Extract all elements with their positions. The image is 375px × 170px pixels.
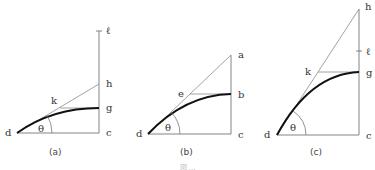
- label-c: c: [366, 130, 372, 141]
- label-h: h: [365, 1, 372, 12]
- label-b: b: [238, 89, 244, 100]
- label-c: c: [238, 129, 244, 140]
- label-ell: ℓ: [366, 46, 371, 57]
- label-d: d: [264, 129, 271, 140]
- theta-arc: [171, 112, 180, 134]
- figure-diagram: d c g h k ℓ θ (a) d c b a e θ (b) d c g …: [0, 0, 375, 170]
- label-c: c: [106, 127, 112, 138]
- figure-caption: 図 ...: [0, 162, 375, 170]
- label-h: h: [106, 78, 113, 89]
- label-k: k: [305, 66, 312, 77]
- label-g: g: [106, 102, 113, 113]
- panel-b: d c b a e θ (b): [136, 49, 244, 157]
- trajectory-curve: [148, 94, 231, 134]
- caption-c: (c): [310, 147, 322, 157]
- trajectory-curve: [17, 108, 99, 133]
- label-g: g: [366, 67, 373, 78]
- label-theta: θ: [165, 122, 171, 133]
- panel-c: d c g h k ℓ θ (c): [264, 1, 373, 157]
- caption-b: (b): [180, 147, 193, 157]
- label-theta: θ: [290, 122, 296, 133]
- label-k: k: [51, 95, 58, 106]
- panel-a: d c g h k ℓ θ (a): [5, 25, 113, 157]
- label-ell: ℓ: [106, 25, 111, 36]
- label-d: d: [5, 127, 12, 138]
- label-theta: θ: [38, 123, 44, 134]
- label-d: d: [136, 128, 143, 139]
- caption-a: (a): [49, 147, 62, 157]
- label-e: e: [178, 88, 184, 99]
- label-a: a: [238, 49, 244, 60]
